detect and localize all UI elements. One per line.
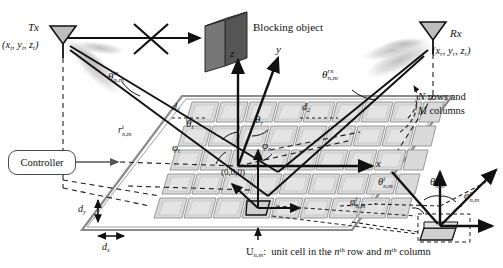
phi-r-nm-label: φ rn,m <box>464 190 479 204</box>
tx-coordinates: (xt, yt, zt) <box>2 40 38 51</box>
theta-tx-label: θ txn,m <box>108 70 124 85</box>
origin-label: (0,0,0) <box>221 168 245 177</box>
blocking-object-label: Blocking object <box>253 22 323 33</box>
dy-label: dy <box>78 204 86 215</box>
phi-t-label: φt <box>172 142 180 155</box>
theta-i-nm-label: θ in,m <box>378 176 393 190</box>
figure-canvas: Tx (xt, yt, zt) Rx (xr, yr, zr) Blocking… <box>0 0 503 268</box>
tx-label: Tx <box>28 22 39 33</box>
blocking-object-icon <box>205 12 247 72</box>
rx-coordinates: (xr, yr, zr) <box>432 46 471 57</box>
d2-label: d2 <box>302 102 310 113</box>
unit-cell-caption: Un,m: unit cell in the nth row and mth c… <box>246 246 431 258</box>
theta-t-label: θt <box>186 118 193 131</box>
theta-rx-label: θ rxn,m <box>322 68 338 83</box>
rx-label: Rx <box>450 28 462 39</box>
z-axis-label: z <box>230 48 234 59</box>
phi-r-label: φr <box>262 140 271 153</box>
d1-label: d1 <box>172 102 180 113</box>
phi-i-nm-label: φ in,m <box>350 196 365 210</box>
rows-columns-annotation: N rows and M columns <box>418 90 466 118</box>
controller-box[interactable]: Controller <box>8 150 76 175</box>
y-axis-label: y <box>276 44 281 55</box>
r-tx-distance-label: r tn,m <box>118 124 131 138</box>
dx-label: dx <box>102 242 110 253</box>
theta-r-label: θr <box>255 114 263 127</box>
diagram-vector-layer <box>0 0 503 268</box>
theta-r-nm-label: θ rn,m <box>430 176 445 190</box>
x-axis-label: x <box>376 158 381 169</box>
